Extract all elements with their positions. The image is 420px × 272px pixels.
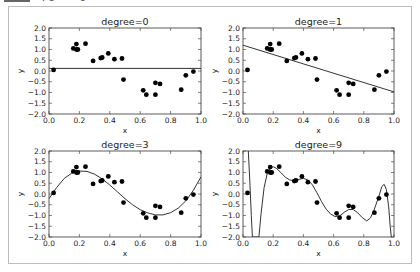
- data-point: [300, 174, 305, 179]
- y-tick-label: 1.0: [34, 168, 46, 177]
- y-tick-label: −2.0: [222, 233, 240, 242]
- y-tick-label: 2.0: [228, 24, 240, 33]
- y-tick-label: −0.5: [28, 200, 46, 209]
- data-point: [300, 51, 305, 56]
- y-tick-label: 1.0: [228, 45, 240, 54]
- data-point: [120, 179, 125, 184]
- x-tick-label: 0.6: [328, 116, 340, 125]
- data-points: [245, 41, 389, 97]
- data-point: [334, 211, 339, 216]
- data-point: [158, 82, 163, 87]
- data-point: [372, 87, 377, 92]
- data-point: [191, 192, 196, 197]
- data-point: [372, 210, 377, 215]
- x-tick-label: 0.4: [104, 116, 116, 125]
- data-point: [384, 192, 389, 197]
- y-axis-label: y: [16, 191, 25, 196]
- data-point: [377, 196, 382, 201]
- y-tick-label: −1.5: [28, 99, 46, 108]
- y-tick-label: 2.0: [228, 147, 240, 156]
- data-point: [346, 92, 351, 97]
- y-tick-label: 0.5: [228, 179, 240, 188]
- axes-frame: [243, 28, 394, 114]
- y-tick-label: 0.0: [34, 190, 46, 199]
- x-tick-label: 1.0: [388, 239, 400, 248]
- x-tick-label: 1.0: [195, 116, 207, 125]
- y-tick-label: −0.5: [222, 200, 240, 209]
- y-tick-label: −0.5: [222, 77, 240, 86]
- y-tick-label: 2.0: [34, 24, 46, 33]
- data-point: [313, 179, 318, 184]
- data-point: [121, 200, 126, 205]
- y-tick-label: 1.5: [228, 34, 240, 43]
- fit-curve: [49, 171, 201, 215]
- x-tick-label: 0.2: [73, 239, 85, 248]
- y-tick-label: 2.0: [34, 147, 46, 156]
- y-tick-label: 0.0: [228, 67, 240, 76]
- y-tick-label: −1.5: [28, 222, 46, 231]
- data-point: [277, 164, 282, 169]
- x-axis-label: x: [316, 249, 321, 258]
- y-tick-label: 1.0: [34, 45, 46, 54]
- data-point: [183, 73, 188, 78]
- y-tick-label: 0.0: [228, 190, 240, 199]
- data-point: [112, 57, 117, 62]
- y-tick-label: −1.5: [222, 222, 240, 231]
- data-point: [313, 56, 318, 61]
- y-axis-label: y: [210, 191, 219, 196]
- data-point: [144, 92, 149, 97]
- y-tick-label: −1.0: [222, 211, 240, 220]
- x-tick-label: 1.0: [388, 116, 400, 125]
- data-point: [112, 180, 117, 185]
- figure-canvas: degree=00.00.20.40.60.81.02.01.51.00.50.…: [0, 0, 420, 272]
- x-tick-label: 1.0: [195, 239, 207, 248]
- data-point: [306, 57, 311, 62]
- axes-frame: [243, 151, 394, 237]
- data-point: [269, 170, 274, 175]
- y-tick-label: 1.5: [228, 157, 240, 166]
- fit-curve: [243, 45, 394, 92]
- data-point: [141, 88, 146, 93]
- data-point: [91, 59, 96, 64]
- data-point: [76, 47, 81, 52]
- data-point: [315, 200, 320, 205]
- data-point: [351, 205, 356, 210]
- x-tick-label: 0.8: [165, 239, 177, 248]
- data-point: [346, 80, 351, 85]
- subplot-degree-0: degree=00.00.20.40.60.81.02.01.51.00.50.…: [16, 16, 207, 135]
- data-point: [83, 164, 88, 169]
- fit-curve: [248, 151, 391, 237]
- data-point: [100, 55, 105, 60]
- data-point: [306, 180, 311, 185]
- y-tick-label: 1.5: [34, 157, 46, 166]
- data-point: [141, 211, 146, 216]
- x-tick-label: 0.6: [134, 239, 146, 248]
- y-tick-label: −1.0: [28, 88, 46, 97]
- data-point: [179, 87, 184, 92]
- subplot-degree-9: degree=90.00.20.40.60.81.02.01.51.00.50.…: [210, 139, 400, 258]
- data-point: [294, 178, 299, 183]
- data-point: [74, 42, 79, 47]
- x-tick-label: 0.4: [104, 239, 116, 248]
- data-point: [315, 77, 320, 82]
- subplot-title: degree=3: [101, 139, 148, 150]
- data-point: [121, 77, 126, 82]
- data-point: [334, 88, 339, 93]
- subplot-title: degree=0: [101, 16, 148, 27]
- data-point: [153, 203, 158, 208]
- y-tick-label: −1.0: [28, 211, 46, 220]
- y-tick-label: −2.0: [222, 110, 240, 119]
- x-axis-label: x: [316, 126, 321, 135]
- data-point: [337, 215, 342, 220]
- data-point: [153, 92, 158, 97]
- data-point: [191, 69, 196, 74]
- data-point: [346, 215, 351, 220]
- data-point: [120, 56, 125, 61]
- subplot-degree-1: degree=10.00.20.40.60.81.02.01.51.00.50.…: [210, 16, 400, 135]
- data-point: [106, 51, 111, 56]
- y-tick-label: 0.5: [34, 179, 46, 188]
- y-tick-label: −2.0: [28, 233, 46, 242]
- x-tick-label: 0.2: [267, 239, 279, 248]
- data-point: [268, 165, 273, 170]
- data-point: [384, 69, 389, 74]
